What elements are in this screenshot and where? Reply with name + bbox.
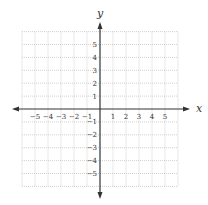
x-tick-label: −4 <box>43 113 54 121</box>
coordinate-plane: x y −5−4−3−2−11234554321−1−2−3−4−5 <box>0 0 208 205</box>
y-tick-label: −5 <box>87 170 97 178</box>
y-tick-label: −4 <box>87 157 98 165</box>
x-axis-label: x <box>196 102 203 115</box>
y-tick-label: −1 <box>87 118 97 126</box>
x-axis-left-arrow-icon <box>12 107 19 112</box>
x-axis-right-arrow-icon <box>183 107 190 112</box>
x-tick-label: 5 <box>163 113 167 121</box>
y-tick-label: −3 <box>87 144 97 152</box>
x-tick-label: 3 <box>137 113 141 121</box>
y-tick-label: 3 <box>93 67 97 75</box>
x-tick-label: −2 <box>69 113 79 121</box>
y-axis-down-arrow-icon <box>98 192 103 199</box>
x-tick-label: 1 <box>111 113 115 121</box>
x-tick-label: −5 <box>30 113 40 121</box>
y-tick-label: 2 <box>93 80 97 88</box>
x-tick-label: 4 <box>150 113 155 121</box>
y-axis-up-arrow-icon <box>98 22 103 29</box>
x-tick-label: −3 <box>56 113 66 121</box>
y-tick-label: 5 <box>93 41 97 49</box>
y-axis-label: y <box>96 7 104 20</box>
x-tick-label: 2 <box>124 113 128 121</box>
y-tick-label: 1 <box>93 93 97 101</box>
y-tick-label: −2 <box>87 131 97 139</box>
axes: x y <box>12 7 203 199</box>
y-tick-label: 4 <box>93 54 98 62</box>
